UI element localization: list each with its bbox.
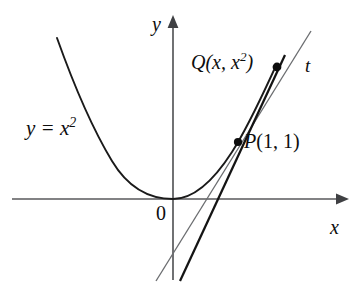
secant-line-pq xyxy=(180,55,285,281)
point-q-marker xyxy=(273,63,282,72)
curve-equation-label: y = x2 xyxy=(26,116,76,139)
y-axis-label: y xyxy=(152,14,161,34)
point-p-name: P xyxy=(244,130,256,152)
point-q-coords: (x, x xyxy=(205,51,239,73)
point-p-label: P(1, 1) xyxy=(244,131,300,151)
figure-canvas xyxy=(0,0,362,289)
x-axis-label: x xyxy=(330,217,339,237)
point-p-marker xyxy=(234,138,242,146)
curve-equation-exponent: 2 xyxy=(69,115,76,130)
y-axis-arrowhead xyxy=(168,15,179,28)
point-q-name: Q xyxy=(191,51,205,73)
x-axis-arrowhead xyxy=(336,194,349,205)
tangent-line-label: t xyxy=(305,56,310,75)
parabola-tangent-figure: y = x2 Q(x, x2) P(1, 1) t y x 0 xyxy=(0,0,362,289)
point-q-paren-close: ) xyxy=(246,51,253,73)
origin-label: 0 xyxy=(156,203,166,223)
curve-equation-text: y = x xyxy=(26,116,69,140)
point-p-coords: (1, 1) xyxy=(256,130,299,152)
point-q-label: Q(x, x2) xyxy=(191,50,253,72)
